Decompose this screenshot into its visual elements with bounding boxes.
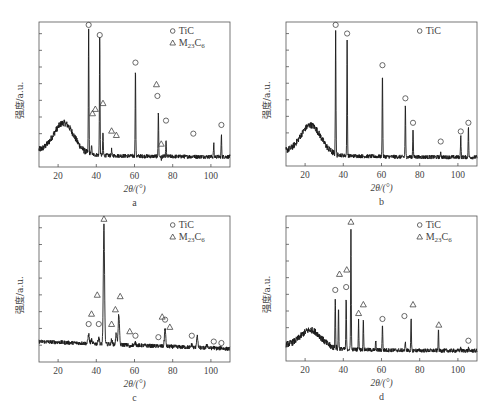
tic-marker	[402, 313, 407, 318]
x-axis-label: 2θ/(°)	[123, 379, 145, 390]
x-tick-label: 20	[53, 366, 63, 376]
legend-label: TiC	[179, 25, 195, 36]
tic-marker	[219, 122, 224, 127]
x-tick-label: 40	[339, 170, 349, 180]
tic-marker	[162, 317, 167, 322]
tic-marker	[86, 22, 91, 27]
tic-marker	[344, 284, 349, 289]
m23c6-marker	[94, 292, 100, 297]
tic-marker	[345, 31, 350, 36]
tic-marker	[97, 32, 102, 37]
m23c6-marker	[356, 310, 362, 315]
tic-marker	[96, 321, 101, 326]
legend-tic-icon	[170, 29, 175, 34]
legend-label: TiC	[426, 219, 442, 230]
x-tick-label: 20	[300, 365, 310, 375]
x-tick-label: 100	[451, 365, 466, 375]
legend-label: M23C6	[179, 231, 206, 244]
tic-marker	[333, 22, 338, 27]
x-tick-label: 60	[377, 170, 387, 180]
panel-label: a	[132, 197, 137, 208]
legend-label: TiC	[179, 219, 195, 230]
x-tick-label: 40	[92, 171, 102, 181]
y-axis-label: 强度/a.u.	[261, 275, 272, 313]
y-axis-label: 强度/a.u.	[14, 276, 25, 314]
x-tick-label: 100	[204, 366, 219, 376]
legend-m23c6-icon	[417, 234, 423, 239]
m23c6-marker	[109, 321, 115, 326]
m23c6-marker	[92, 106, 98, 111]
legend-label: M23C6	[426, 231, 453, 244]
legend-label: TiC	[426, 25, 442, 36]
m23c6-marker	[100, 100, 106, 105]
tic-marker	[155, 93, 160, 98]
m23c6-marker	[117, 293, 123, 298]
x-tick-label: 40	[92, 366, 102, 376]
tic-marker	[333, 287, 338, 292]
x-tick-label: 80	[415, 365, 425, 375]
panel-c: 20406080100TiCM23C62θ/(°)强度/a.u.c	[14, 216, 230, 403]
x-axis-label: 2θ/(°)	[123, 184, 145, 195]
panel-label: b	[379, 196, 384, 207]
legend-tic-icon	[417, 29, 422, 34]
tic-marker	[380, 63, 385, 68]
m23c6-marker	[167, 324, 173, 329]
tic-marker	[86, 321, 91, 326]
x-axis-label: 2θ/(°)	[370, 378, 392, 389]
m23c6-marker	[336, 271, 342, 276]
x-tick-label: 20	[300, 170, 310, 180]
tic-marker	[458, 129, 463, 134]
legend-m23c6-icon	[170, 40, 176, 45]
m23c6-marker	[344, 267, 350, 272]
panel-b: 20406080100TiC2θ/(°)强度/a.u.b	[261, 22, 477, 207]
tic-marker	[403, 96, 408, 101]
panel-label: c	[132, 392, 137, 403]
tic-marker	[163, 118, 168, 123]
tic-marker	[189, 333, 194, 338]
tic-marker	[133, 333, 138, 338]
x-tick-label: 60	[130, 171, 140, 181]
xrd-figure: 20406080100TiCM23C62θ/(°)强度/a.u.a2040608…	[0, 0, 496, 413]
x-tick-label: 20	[53, 171, 63, 181]
panel-a: 20406080100TiCM23C62θ/(°)强度/a.u.a	[14, 22, 230, 208]
tic-marker	[156, 335, 161, 340]
panel-label: d	[379, 391, 384, 402]
m23c6-marker	[127, 328, 133, 333]
m23c6-marker	[360, 301, 366, 306]
tic-marker	[438, 139, 443, 144]
m23c6-marker	[348, 219, 354, 224]
m23c6-marker	[101, 216, 107, 221]
tic-marker	[211, 339, 216, 344]
xrd-trace-d	[286, 229, 477, 352]
m23c6-marker	[109, 128, 115, 133]
x-tick-label: 60	[377, 365, 387, 375]
tic-marker	[380, 316, 385, 321]
x-tick-label: 80	[168, 171, 178, 181]
x-tick-label: 100	[204, 171, 219, 181]
x-tick-label: 40	[339, 365, 349, 375]
m23c6-marker	[436, 322, 442, 327]
y-axis-label: 强度/a.u.	[261, 81, 272, 119]
y-axis-label: 强度/a.u.	[14, 81, 25, 119]
tic-marker	[466, 338, 471, 343]
x-tick-label: 60	[130, 366, 140, 376]
panel-d: 20406080100TiCM23C62θ/(°)强度/a.u.d	[261, 216, 477, 402]
legend-tic-icon	[170, 223, 175, 228]
x-tick-label: 80	[415, 170, 425, 180]
tic-marker	[410, 120, 415, 125]
x-axis-label: 2θ/(°)	[370, 183, 392, 194]
m23c6-marker	[410, 301, 416, 306]
legend-m23c6-icon	[170, 234, 176, 239]
tic-marker	[466, 120, 471, 125]
m23c6-marker	[159, 314, 165, 319]
legend-tic-icon	[417, 223, 422, 228]
tic-marker	[133, 60, 138, 65]
x-tick-label: 100	[451, 170, 466, 180]
tic-marker	[219, 340, 224, 345]
legend-label: M23C6	[179, 37, 206, 50]
m23c6-marker	[153, 81, 159, 86]
m23c6-marker	[89, 311, 95, 316]
xrd-trace-b	[286, 30, 477, 159]
m23c6-marker	[112, 306, 118, 311]
tic-marker	[191, 131, 196, 136]
